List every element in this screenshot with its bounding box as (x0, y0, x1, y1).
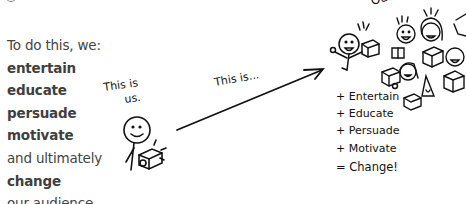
equation-entertain: + Entertain (336, 90, 399, 103)
equation-educate: + Educate (336, 107, 394, 120)
sketch-illustration: This is us. This is... Our (0, 0, 466, 204)
equation-motivate: + Motivate (336, 142, 397, 155)
leader-figure-icon (331, 22, 380, 70)
us-stick-figure-icon (124, 117, 166, 170)
equation-list: + Entertain + Educate + Persuade + Motiv… (336, 90, 400, 174)
us-label-line2: us. (124, 91, 142, 106)
equation-persuade: + Persuade (336, 124, 400, 137)
us-label: This is us. (102, 76, 142, 106)
arrow-label: This is... (212, 68, 260, 89)
audience-label-partial: Our (369, 0, 394, 8)
equation-change: = Change! (336, 160, 398, 174)
